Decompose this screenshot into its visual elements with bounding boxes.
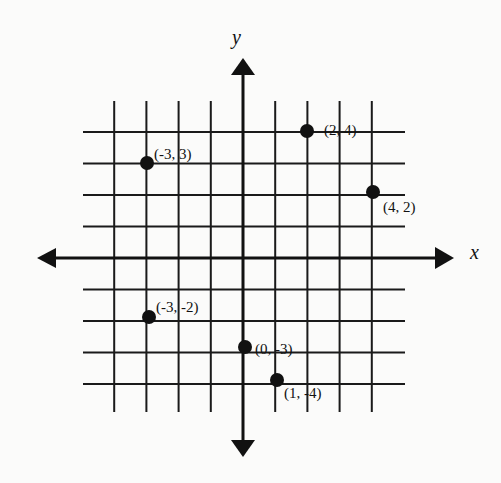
point-label: (-3, 3) [154,146,192,163]
point-2-4: (2, 4) [300,122,357,139]
coordinate-plane: x y (-3, 3) (2, 4) (4, 2) (-3, -2) (0, -… [0,0,501,483]
point-label: (2, 4) [324,122,357,139]
point-label: (-3, -2) [156,299,198,316]
point-label: (0, -3) [255,341,293,358]
point-label: (4, 2) [383,199,416,216]
point-0-neg3: (0, -3) [238,340,293,358]
x-axis-left-arrow-icon [37,248,56,268]
y-axis-label: y [230,26,241,49]
point-1-neg4: (1, -4) [270,373,322,402]
point-neg3-3: (-3, 3) [140,146,192,170]
axes: x y [37,26,479,457]
x-axis-right-arrow-icon [435,247,454,269]
point-4-2: (4, 2) [366,185,416,216]
x-axis-label: x [469,241,479,263]
point-label: (1, -4) [284,385,322,402]
y-axis-up-arrow-icon [231,58,255,75]
y-axis-down-arrow-icon [231,440,255,457]
